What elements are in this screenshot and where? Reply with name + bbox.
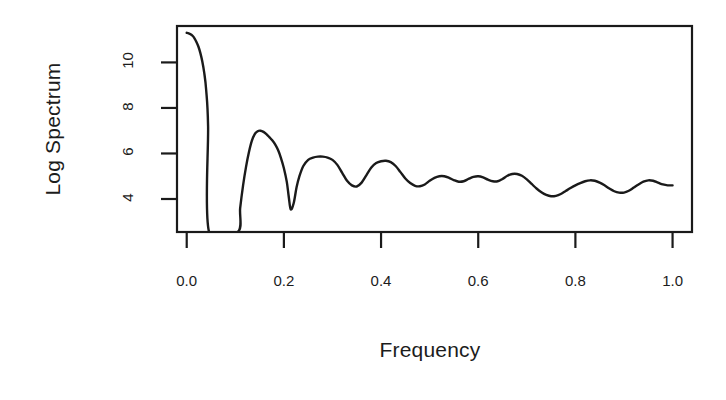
xtick-label-5: 1.0: [651, 272, 695, 289]
y-axis-title: Log Spectrum: [38, 14, 68, 244]
x-axis-title: Frequency: [330, 338, 530, 362]
ytick-label-0: 4: [119, 182, 136, 212]
xtick-label-3: 0.6: [456, 272, 500, 289]
xtick-label-2: 0.4: [359, 272, 403, 289]
xtick-label-0: 0.0: [165, 272, 209, 289]
xtick-label-4: 0.8: [553, 272, 597, 289]
ytick-label-3: 10: [119, 46, 136, 76]
ytick-label-2: 8: [119, 91, 136, 121]
spectral-density-figure: 0.0 0.2 0.4 0.6 0.8 1.0 4 6 8 10 Log Spe…: [0, 0, 726, 400]
ytick-label-1: 6: [119, 137, 136, 167]
xtick-label-1: 0.2: [262, 272, 306, 289]
